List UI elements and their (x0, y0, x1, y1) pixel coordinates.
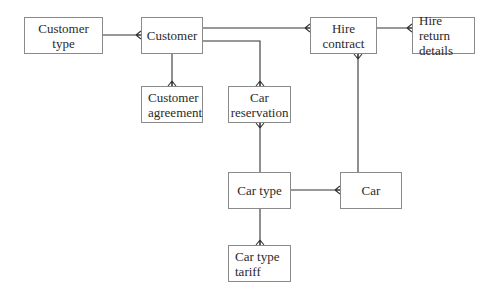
entity-car[interactable]: Car (340, 172, 402, 209)
entity-label: Customer agreement (148, 90, 202, 120)
entity-label: Car (362, 183, 381, 198)
entity-hire-contract[interactable]: Hire contract (310, 17, 377, 54)
entity-car-type[interactable]: Car type (228, 172, 291, 209)
entity-label: Car reservation (231, 90, 289, 120)
relationship-car-type-to-car-reservation-crows-foot-icon (256, 123, 264, 128)
entity-label: Customer type (31, 21, 96, 51)
entity-label: Hire contract (317, 21, 370, 51)
entity-car-type-tariff[interactable]: Car type tariff (228, 245, 291, 282)
entity-label: Customer (147, 28, 198, 43)
entity-label: Car type (237, 183, 281, 198)
entity-label: Hire return details (419, 13, 468, 58)
entity-customer-agreement[interactable]: Customer agreement (141, 86, 203, 123)
entity-customer-type[interactable]: Customer type (24, 17, 103, 54)
entity-label: Car type tariff (235, 249, 284, 279)
entity-hire-return-details[interactable]: Hire return details (412, 17, 475, 54)
entity-car-reservation[interactable]: Car reservation (228, 86, 291, 123)
relationship-customer-to-car-reservation-line (203, 41, 260, 86)
relationship-car-to-hire-contract-crows-foot-icon (354, 54, 362, 59)
entity-customer[interactable]: Customer (141, 17, 203, 54)
